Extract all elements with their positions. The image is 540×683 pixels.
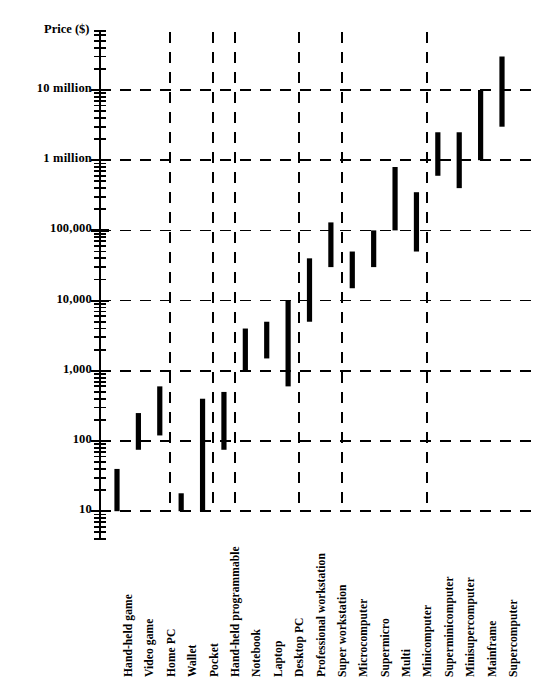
x-tick-label: Notebook <box>250 629 262 677</box>
range-bar <box>392 167 397 230</box>
range-bar <box>414 192 419 251</box>
x-tick-label: Laptop <box>272 641 284 677</box>
x-tick-label: Super workstation <box>336 584 348 677</box>
x-tick-label: Minisupercomputer <box>464 577 476 677</box>
x-tick-label: Microcomputer <box>357 599 369 677</box>
range-bar <box>350 252 355 289</box>
x-tick-label: Wallet <box>186 644 198 677</box>
range-bar <box>179 493 184 511</box>
range-bar <box>243 329 248 371</box>
x-tick-label: Mainframe <box>486 621 498 677</box>
x-tick-label: Superminicomputer <box>443 576 455 677</box>
x-tick-label: Desktop PC <box>293 618 305 677</box>
horizontal-gridlines <box>100 90 533 511</box>
plot-area <box>0 0 540 683</box>
x-tick-label: Multi <box>400 649 412 677</box>
range-bar <box>114 469 119 511</box>
y-tick-label: 10 <box>79 502 92 517</box>
y-tick-label: 100 <box>73 432 92 447</box>
x-tick-label: Hand-held game <box>122 594 134 677</box>
y-tick-label: 10,000 <box>56 292 92 307</box>
range-bar <box>478 90 483 160</box>
range-bar <box>264 322 269 359</box>
range-bar <box>371 230 376 267</box>
y-tick-label: 100,000 <box>50 221 92 236</box>
range-bar <box>136 413 141 450</box>
range-bar <box>200 399 205 511</box>
x-tick-label: Supermicro <box>379 618 391 677</box>
range-bar <box>457 132 462 188</box>
x-tick-label: Pocket <box>208 643 220 677</box>
range-bar <box>286 301 291 387</box>
x-tick-label: Home PC <box>165 629 177 677</box>
x-tick-label: Supercomputer <box>507 599 519 677</box>
price-range-chart: Price ($) 101001,00010,000100,0001 milli… <box>0 0 540 683</box>
x-tick-label: Video game <box>143 619 155 677</box>
range-bar <box>307 258 312 321</box>
range-bar <box>157 386 162 435</box>
range-bar <box>221 392 226 450</box>
range-bar <box>328 222 333 267</box>
vertical-gridlines <box>170 32 427 512</box>
x-tick-label: Hand-held programmable <box>229 546 241 677</box>
range-bar <box>499 57 504 127</box>
range-bar <box>435 132 440 176</box>
range-bars <box>114 57 504 512</box>
y-tick-label: 1,000 <box>63 362 92 377</box>
y-tick-label: 10 million <box>37 81 92 96</box>
y-tick-label: 1 million <box>43 151 92 166</box>
x-tick-label: Professional workstation <box>315 553 327 677</box>
x-tick-label: Minicomputer <box>421 605 433 677</box>
